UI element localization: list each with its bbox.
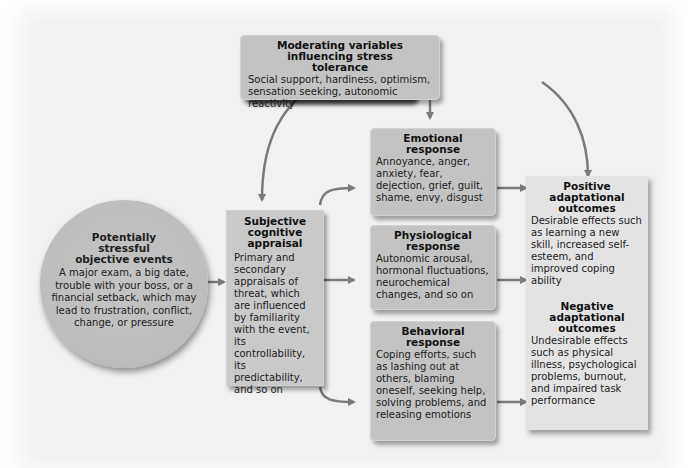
events-body: A major exam, a big date, trouble with y… (40, 267, 208, 330)
positive-title: Positive adaptational outcomes (531, 181, 643, 214)
negative-title: Negative adaptational outcomes (531, 301, 643, 334)
appraisal-box: Subjective cognitive appraisal Primary a… (226, 210, 324, 386)
physiological-response-box: Physiological response Autonomic arousal… (370, 225, 496, 310)
positive-body: Desirable effects such as learning a new… (531, 215, 643, 287)
behavioral-body: Coping efforts, such as lashing out at o… (376, 349, 490, 421)
negative-outcome: Negative adaptational outcomes Undesirab… (531, 301, 643, 407)
arrow-moderating-to-positive (542, 82, 588, 176)
behavioral-title: Behavioral response (376, 326, 490, 348)
events-circle: Potentially stressful objective events A… (40, 200, 208, 368)
appraisal-title: Subjective cognitive appraisal (234, 216, 316, 249)
positive-outcome: Positive adaptational outcomes Desirable… (531, 181, 643, 287)
behavioral-response-box: Behavioral response Coping efforts, such… (370, 321, 496, 441)
emotional-body: Annoyance, anger, anxiety, fear, dejecti… (376, 156, 490, 204)
moderating-box: Moderating variables influencing stress … (240, 35, 440, 100)
arrow-appraisal-to-emotional (320, 188, 354, 205)
physiological-title: Physiological response (376, 230, 490, 252)
emotional-title: Emotional response (376, 133, 490, 155)
moderating-body: Social support, hardiness, optimism, sen… (246, 74, 434, 110)
moderating-title: Moderating variables influencing stress … (246, 40, 434, 73)
emotional-response-box: Emotional response Annoyance, anger, anx… (370, 128, 496, 216)
arrow-appraisal-to-behavioral (320, 387, 354, 402)
events-title: Potentially stressful objective events (40, 232, 208, 265)
outcomes-box: Positive adaptational outcomes Desirable… (526, 176, 648, 430)
physiological-body: Autonomic arousal, hormonal fluctuations… (376, 253, 490, 301)
negative-body: Undesirable effects such as physical ill… (531, 335, 643, 407)
appraisal-body: Primary and secondary appraisals of thre… (234, 252, 316, 396)
